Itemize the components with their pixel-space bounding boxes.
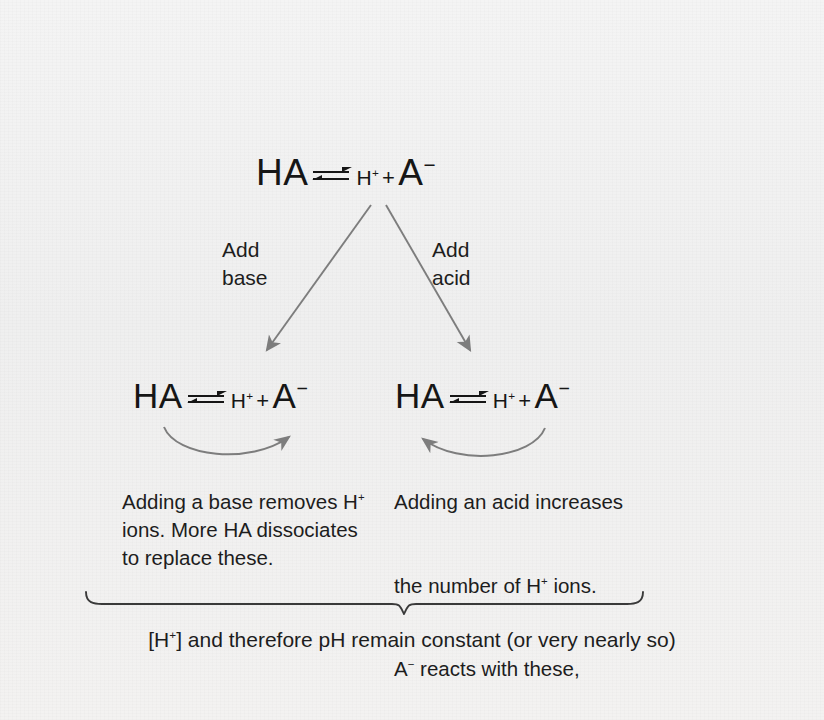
equation-top: HAH++A− xyxy=(256,152,436,194)
equation-top-product-1: H+ xyxy=(356,166,379,189)
description-left-rest: ions. More HA dissociates to replace the… xyxy=(122,518,358,569)
branch-label-add-acid: Add acid xyxy=(432,236,471,291)
description-right-line-3b: reacts with these, xyxy=(414,657,579,680)
description-left: Adding a base removes H+ ions. More HA d… xyxy=(122,460,397,572)
equation-left-operator: + xyxy=(253,388,272,413)
charge-negative: − xyxy=(424,153,436,176)
equation-top-reactant: HA xyxy=(256,152,308,193)
curved-arrow-dissociation xyxy=(164,427,289,454)
description-left-line-1: Adding a base removes H xyxy=(122,490,358,513)
charge-positive: + xyxy=(541,575,548,587)
equilibrium-arrow-icon xyxy=(450,385,488,413)
equation-right-operator: + xyxy=(515,388,534,413)
description-right: Adding an acid increases the number of H… xyxy=(394,460,684,720)
charge-negative: − xyxy=(558,377,569,399)
summary-text: ] and therefore pH remain constant (or v… xyxy=(176,628,676,651)
summary-caption: [H+] and therefore pH remain constant (o… xyxy=(0,628,824,652)
equation-top-operator: + xyxy=(379,165,398,190)
curved-arrow-recombination xyxy=(423,428,545,456)
equilibrium-arrow-icon xyxy=(188,385,226,413)
equation-left-product-2: A− xyxy=(273,376,308,415)
description-right-line-2a: the number of H xyxy=(394,574,541,597)
equation-left-reactant: HA xyxy=(133,376,183,415)
equation-right-product-2: A− xyxy=(535,376,570,415)
equation-right-product-1: H+ xyxy=(493,389,516,412)
charge-positive: + xyxy=(358,491,365,503)
diagram-canvas: HAH++A− Add base Add acid HAH++A− HAH++A… xyxy=(0,0,824,720)
equation-left-product-1: H+ xyxy=(231,389,254,412)
equation-top-product-2: A− xyxy=(398,152,435,193)
branch-label-add-base: Add base xyxy=(222,236,268,291)
equilibrium-arrow-icon xyxy=(313,160,351,190)
charge-positive: + xyxy=(372,166,379,179)
description-right-line-2b: ions. xyxy=(548,574,597,597)
summary-prefix: [H xyxy=(148,628,169,651)
equation-right-reactant: HA xyxy=(395,376,445,415)
charge-negative: − xyxy=(296,377,307,399)
description-right-line-3a: A xyxy=(394,657,408,680)
equation-right: HAH++A− xyxy=(395,376,570,416)
branch-arrow-left xyxy=(267,205,371,350)
description-right-line-1: Adding an acid increases xyxy=(394,490,623,513)
equation-left: HAH++A− xyxy=(133,376,308,416)
